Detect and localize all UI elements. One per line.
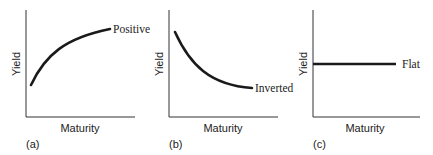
panel-b: Inverted Yield Maturity (b) bbox=[153, 10, 294, 150]
curve-label-inverted: Inverted bbox=[255, 82, 294, 94]
curve-label-flat: Flat bbox=[402, 58, 421, 70]
panel-a: Positive Yield Maturity (a) bbox=[10, 10, 150, 150]
inverted-curve bbox=[175, 32, 252, 88]
y-axis-label: Yield bbox=[297, 52, 309, 76]
x-axis-label: Maturity bbox=[345, 122, 385, 134]
x-axis-label: Maturity bbox=[203, 122, 243, 134]
curve-label-positive: Positive bbox=[113, 23, 150, 35]
y-axis-label: Yield bbox=[10, 52, 22, 76]
panel-label: (a) bbox=[26, 138, 39, 150]
positive-curve bbox=[31, 29, 110, 85]
y-axis-label: Yield bbox=[153, 52, 165, 76]
x-axis-label: Maturity bbox=[60, 122, 100, 134]
panel-label: (c) bbox=[313, 138, 326, 150]
yield-curves-figure: Positive Yield Maturity (a) Inverted Yie… bbox=[0, 0, 433, 155]
panel-c: Flat Yield Maturity (c) bbox=[297, 10, 421, 150]
panel-label: (b) bbox=[169, 138, 182, 150]
